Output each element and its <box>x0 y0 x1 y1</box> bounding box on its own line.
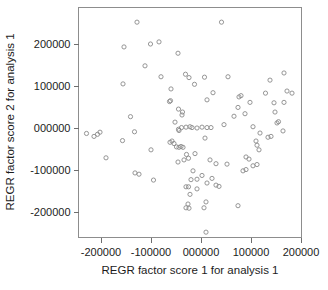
data-point <box>236 105 240 109</box>
y-tick-label: -200000 <box>30 206 70 218</box>
y-axis-tick-labels: 200000100000000000-100000-200000 <box>30 38 70 218</box>
y-tick-label: 100000 <box>34 80 71 92</box>
data-point <box>200 125 204 129</box>
y-axis-ticks <box>74 44 79 212</box>
data-point <box>251 125 255 129</box>
data-point <box>290 91 294 95</box>
data-point <box>248 100 252 104</box>
data-point <box>128 115 132 119</box>
data-point <box>176 51 180 55</box>
data-point <box>120 139 124 143</box>
x-axis-tick-labels: -200000-100000000000100000200000 <box>81 246 320 258</box>
data-point <box>258 131 262 135</box>
data-point <box>188 192 192 196</box>
data-point <box>204 230 208 234</box>
data-point <box>176 160 180 164</box>
data-point <box>148 42 152 46</box>
data-point <box>135 20 139 24</box>
data-point <box>173 120 177 124</box>
data-point <box>247 157 251 161</box>
data-point <box>195 126 199 130</box>
data-point <box>203 136 207 140</box>
data-point <box>192 82 196 86</box>
data-point <box>84 131 88 135</box>
data-point <box>268 78 272 82</box>
data-point <box>219 20 223 24</box>
data-point <box>208 158 212 162</box>
data-point <box>281 129 285 133</box>
y-axis-title: REGR factor score 2 for analysis 1 <box>4 33 16 210</box>
data-point <box>159 75 163 79</box>
x-tick-label: 200000 <box>283 246 320 258</box>
x-axis-title: REGR factor score 1 for analysis 1 <box>101 264 278 276</box>
data-point <box>195 187 199 191</box>
data-point <box>222 123 226 127</box>
data-point <box>243 112 247 116</box>
data-point <box>255 162 259 166</box>
data-point <box>157 40 161 44</box>
data-point <box>151 178 155 182</box>
data-point <box>122 45 126 49</box>
data-point <box>285 89 289 93</box>
data-point <box>232 114 236 118</box>
data-point <box>202 75 206 79</box>
data-point <box>182 158 186 162</box>
data-point <box>169 87 173 91</box>
x-tick-label: -100000 <box>131 246 171 258</box>
data-point <box>187 206 191 210</box>
data-point <box>226 75 230 79</box>
x-tick-label: -200000 <box>81 246 121 258</box>
data-points-layer <box>84 20 294 234</box>
data-point <box>137 172 141 176</box>
data-point <box>214 162 218 166</box>
y-tick-label: -100000 <box>30 164 70 176</box>
x-tick-label: 000000 <box>183 246 220 258</box>
data-point <box>121 82 125 86</box>
data-point <box>282 100 286 104</box>
data-point <box>282 71 286 75</box>
data-point <box>210 176 214 180</box>
data-point <box>205 98 209 102</box>
data-point <box>200 173 204 177</box>
data-point <box>183 72 187 76</box>
data-point <box>184 125 188 129</box>
data-point <box>176 107 180 111</box>
data-point <box>257 148 261 152</box>
data-point <box>202 206 206 210</box>
data-point <box>187 76 191 80</box>
data-point <box>263 91 267 95</box>
scatter-plot-figure: -200000-100000000000100000200000 2000001… <box>0 0 328 290</box>
y-tick-label: 000000 <box>34 122 71 134</box>
y-tick-label: 200000 <box>34 38 71 50</box>
data-point <box>204 200 208 204</box>
data-point <box>195 177 199 181</box>
data-point <box>191 169 195 173</box>
data-point <box>143 64 147 68</box>
data-point <box>272 101 276 105</box>
data-point <box>205 181 209 185</box>
data-point <box>211 91 215 95</box>
data-point <box>254 139 258 143</box>
data-point <box>180 110 184 114</box>
data-point <box>225 162 229 166</box>
x-tick-label: 100000 <box>233 246 270 258</box>
x-axis-ticks <box>101 238 301 243</box>
data-point <box>104 156 108 160</box>
data-point <box>189 178 193 182</box>
plot-canvas: -200000-100000000000100000200000 2000001… <box>0 0 328 290</box>
data-point <box>236 204 240 208</box>
data-point <box>186 156 190 160</box>
data-point <box>193 152 197 156</box>
data-point <box>149 148 153 152</box>
data-point <box>132 130 136 134</box>
data-point <box>273 110 277 114</box>
data-point <box>255 143 259 147</box>
